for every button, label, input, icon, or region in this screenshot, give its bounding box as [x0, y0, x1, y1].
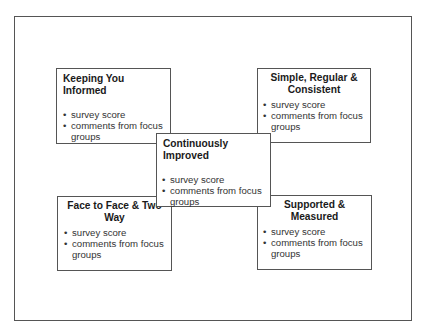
list-item: •survey score: [63, 109, 170, 120]
bullet-icon: •: [64, 238, 67, 249]
box-face-to-face-two-way: Face to Face & Two Way •survey score •co…: [57, 196, 172, 271]
bullet-icon: •: [63, 109, 66, 120]
list-item: •comments from focus groups: [162, 185, 270, 207]
list-item: •survey score: [162, 174, 270, 185]
box-title: Supported & Measured: [258, 196, 371, 222]
list-item: •comments from focus groups: [263, 237, 371, 259]
bullet-icon: •: [263, 226, 266, 237]
bullet-icon: •: [162, 185, 165, 196]
box-continuously-improved: Continuously Improved •survey score •com…: [156, 133, 271, 207]
criteria-list: •survey score •comments from focus group…: [263, 99, 370, 132]
criteria-list: •survey score •comments from focus group…: [64, 227, 171, 260]
list-item: •survey score: [263, 99, 370, 110]
bullet-icon: •: [64, 227, 67, 238]
box-title: Keeping You Informed: [57, 69, 170, 96]
bullet-icon: •: [263, 237, 266, 248]
list-item: •comments from focus groups: [63, 120, 170, 142]
box-supported-measured: Supported & Measured •survey score •comm…: [257, 195, 372, 270]
bullet-icon: •: [63, 120, 66, 131]
criteria-list: •survey score •comments from focus group…: [162, 174, 270, 207]
bullet-icon: •: [162, 174, 165, 185]
box-simple-regular-consistent: Simple, Regular & Consistent •survey sco…: [257, 68, 371, 143]
box-keeping-you-informed: Keeping You Informed •survey score •comm…: [56, 68, 171, 144]
list-item: •survey score: [64, 227, 171, 238]
list-item: •comments from focus groups: [64, 238, 171, 260]
criteria-list: •survey score •comments from focus group…: [63, 109, 170, 142]
box-title: Face to Face & Two Way: [58, 197, 171, 223]
box-title: Simple, Regular & Consistent: [258, 69, 370, 95]
box-title: Continuously Improved: [157, 134, 270, 161]
list-item: •comments from focus groups: [263, 110, 370, 132]
bullet-icon: •: [263, 110, 266, 121]
criteria-list: •survey score •comments from focus group…: [263, 226, 371, 259]
list-item: •survey score: [263, 226, 371, 237]
bullet-icon: •: [263, 99, 266, 110]
